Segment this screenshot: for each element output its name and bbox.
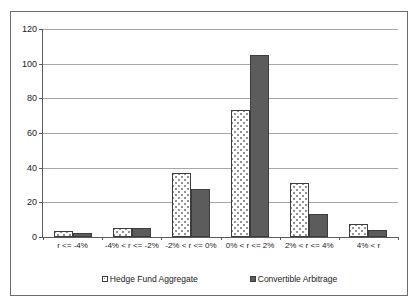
bar bbox=[349, 224, 368, 237]
bar bbox=[290, 183, 309, 237]
bar-group bbox=[113, 29, 151, 237]
bar bbox=[231, 110, 250, 237]
chart-legend: Hedge Fund Aggregate Convertible Arbitra… bbox=[42, 274, 397, 284]
gridline bbox=[43, 168, 398, 169]
y-axis-tick bbox=[39, 64, 43, 65]
x-axis-category-label: -4% < r <= -2% bbox=[102, 241, 161, 251]
x-axis-category-label: -2% < r <= 0% bbox=[161, 241, 220, 251]
y-axis-tick bbox=[39, 202, 43, 203]
y-axis-tick bbox=[39, 168, 43, 169]
x-axis-category-label: 2% < r <= 4% bbox=[280, 241, 339, 251]
gridline bbox=[43, 133, 398, 134]
bar bbox=[132, 228, 151, 237]
bar bbox=[54, 231, 73, 237]
bar bbox=[250, 55, 269, 237]
bar bbox=[191, 189, 210, 237]
legend-swatch-icon-series-a bbox=[102, 276, 108, 282]
x-axis-tick bbox=[221, 237, 222, 240]
y-axis-tick-label: 80 bbox=[27, 94, 37, 103]
chart-frame: 020406080100120 r <= -4%-4% < r <= -2%-2… bbox=[10, 11, 408, 296]
legend-label-series-a: Hedge Fund Aggregate bbox=[110, 274, 198, 284]
bar bbox=[113, 228, 132, 237]
x-axis-tick bbox=[43, 237, 44, 240]
y-axis-tick-label: 120 bbox=[22, 25, 37, 34]
y-axis-tick bbox=[39, 29, 43, 30]
legend-swatch-icon-series-b bbox=[250, 276, 256, 282]
plot-area: 020406080100120 r <= -4%-4% < r <= -2%-2… bbox=[42, 29, 398, 238]
y-axis-tick bbox=[39, 98, 43, 99]
bar bbox=[73, 233, 92, 237]
x-axis-category-label: 4% < r bbox=[339, 241, 398, 251]
bar-group bbox=[290, 29, 328, 237]
bar bbox=[368, 230, 387, 237]
x-axis-category-label: r <= -4% bbox=[43, 241, 102, 251]
y-axis-tick-label: 60 bbox=[27, 129, 37, 138]
y-axis-tick-label: 40 bbox=[27, 163, 37, 172]
bar-group bbox=[231, 29, 269, 237]
bar-group bbox=[172, 29, 210, 237]
gridline bbox=[43, 98, 398, 99]
y-axis-tick-label: 0 bbox=[32, 233, 37, 242]
bar bbox=[309, 214, 328, 237]
gridline bbox=[43, 64, 398, 65]
bar-group bbox=[349, 29, 387, 237]
gridline bbox=[43, 29, 398, 30]
gridline bbox=[43, 202, 398, 203]
y-axis-tick-label: 100 bbox=[22, 59, 37, 68]
y-axis-tick-label: 20 bbox=[27, 198, 37, 207]
bar bbox=[172, 173, 191, 237]
x-axis-tick bbox=[102, 237, 103, 240]
bar-group bbox=[54, 29, 92, 237]
legend-label-series-b: Convertible Arbitrage bbox=[258, 274, 337, 284]
x-axis-tick bbox=[161, 237, 162, 240]
legend-item-convertible-arbitrage: Convertible Arbitrage bbox=[250, 274, 337, 284]
x-axis-tick bbox=[280, 237, 281, 240]
x-axis-tick bbox=[398, 237, 399, 240]
legend-item-hedge-fund-aggregate: Hedge Fund Aggregate bbox=[102, 274, 198, 284]
x-axis-category-label: 0% < r <= 2% bbox=[221, 241, 280, 251]
x-axis-tick bbox=[339, 237, 340, 240]
y-axis-tick bbox=[39, 133, 43, 134]
